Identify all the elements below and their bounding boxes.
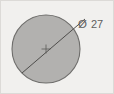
diameter-value-label: 27 — [91, 18, 103, 30]
drawing-frame: Ø 27 — [0, 0, 114, 94]
diameter-symbol-icon: Ø — [78, 18, 87, 30]
technical-drawing-canvas: Ø 27 — [1, 1, 114, 94]
